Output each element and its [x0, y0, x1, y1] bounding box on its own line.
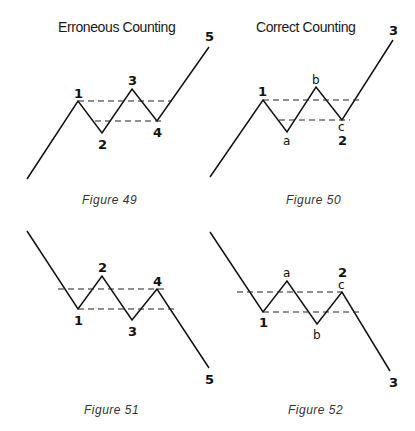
- wave-label-4: 4: [153, 125, 162, 140]
- wave-label-2: 2: [98, 260, 107, 275]
- wave-label-3: 3: [128, 73, 137, 88]
- wave-label-c: c: [338, 120, 345, 134]
- elliott-wave-diagram: Erroneous Counting Correct Counting 1 2 …: [0, 0, 415, 431]
- wave-label-5: 5: [205, 29, 214, 44]
- figure-51: 1 2 3 4 5 Figure 51: [27, 231, 214, 417]
- wave-line: [27, 231, 209, 368]
- figure-caption: Figure 49: [82, 193, 137, 207]
- heading-erroneous-counting: Erroneous Counting: [58, 19, 175, 35]
- figure-caption: Figure 52: [288, 403, 343, 417]
- wave-label-b: b: [313, 328, 321, 342]
- wave-label-1: 1: [74, 313, 83, 328]
- wave-label-2: 2: [98, 137, 107, 152]
- wave-label-5: 5: [205, 372, 214, 387]
- wave-line: [210, 40, 393, 177]
- heading-correct-counting: Correct Counting: [256, 19, 355, 35]
- wave-label-b: b: [312, 73, 320, 87]
- wave-label-c: c: [338, 278, 345, 292]
- wave-label-3: 3: [389, 375, 398, 390]
- wave-label-3: 3: [389, 23, 398, 38]
- wave-label-4: 4: [153, 274, 162, 289]
- wave-label-a: a: [283, 266, 290, 280]
- figure-caption: Figure 51: [84, 403, 139, 417]
- figure-49: 1 2 3 4 5 Figure 49: [27, 29, 214, 207]
- figure-52: a 2 c 1 b 3 Figure 52: [210, 232, 398, 417]
- figure-50: 1 a b c 2 3 Figure 50: [210, 23, 398, 207]
- figure-caption: Figure 50: [286, 193, 341, 207]
- wave-label-1: 1: [259, 315, 268, 330]
- wave-label-1: 1: [258, 84, 267, 99]
- wave-line: [210, 232, 390, 371]
- wave-label-a: a: [283, 134, 290, 148]
- wave-line: [27, 47, 209, 179]
- wave-label-2: 2: [338, 133, 347, 148]
- wave-label-3: 3: [128, 324, 137, 339]
- wave-label-1: 1: [74, 86, 83, 101]
